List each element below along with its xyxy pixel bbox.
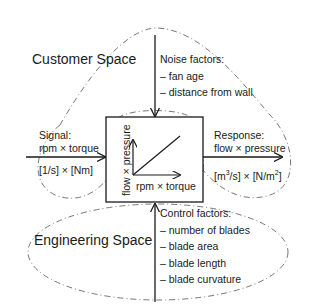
engineering-space-label: Engineering Space [34,232,152,249]
control-factor-item: – number of blades [160,222,250,239]
signal-quantity: rpm × torque [39,142,99,155]
response-units: [m3/s] × [N/m2] [214,166,282,183]
noise-factors-title: Noise factors: [160,51,253,68]
noise-factor-item: – fan age [160,68,253,85]
control-factors-title: Control factors: [160,205,250,222]
response-quantity: flow × pressure [214,142,286,155]
noise-factors: Noise factors: – fan age – distance from… [160,51,253,101]
customer-space-label: Customer Space [32,51,136,68]
noise-factor-item: – distance from wall [160,84,253,101]
control-factor-item: – blade length [160,255,250,272]
control-factor-item: – blade area [160,238,250,255]
box-x-axis-label: rpm × torque [136,180,196,193]
box-y-axis-label: flow × pressure [120,125,132,197]
control-factor-item: – blade curvature [160,271,250,288]
signal-units: [1/s] × [Nm] [39,164,93,177]
signal-title: Signal: [39,129,71,142]
response-title: Response: [214,129,264,142]
control-factors: Control factors: – number of blades – bl… [160,205,250,288]
